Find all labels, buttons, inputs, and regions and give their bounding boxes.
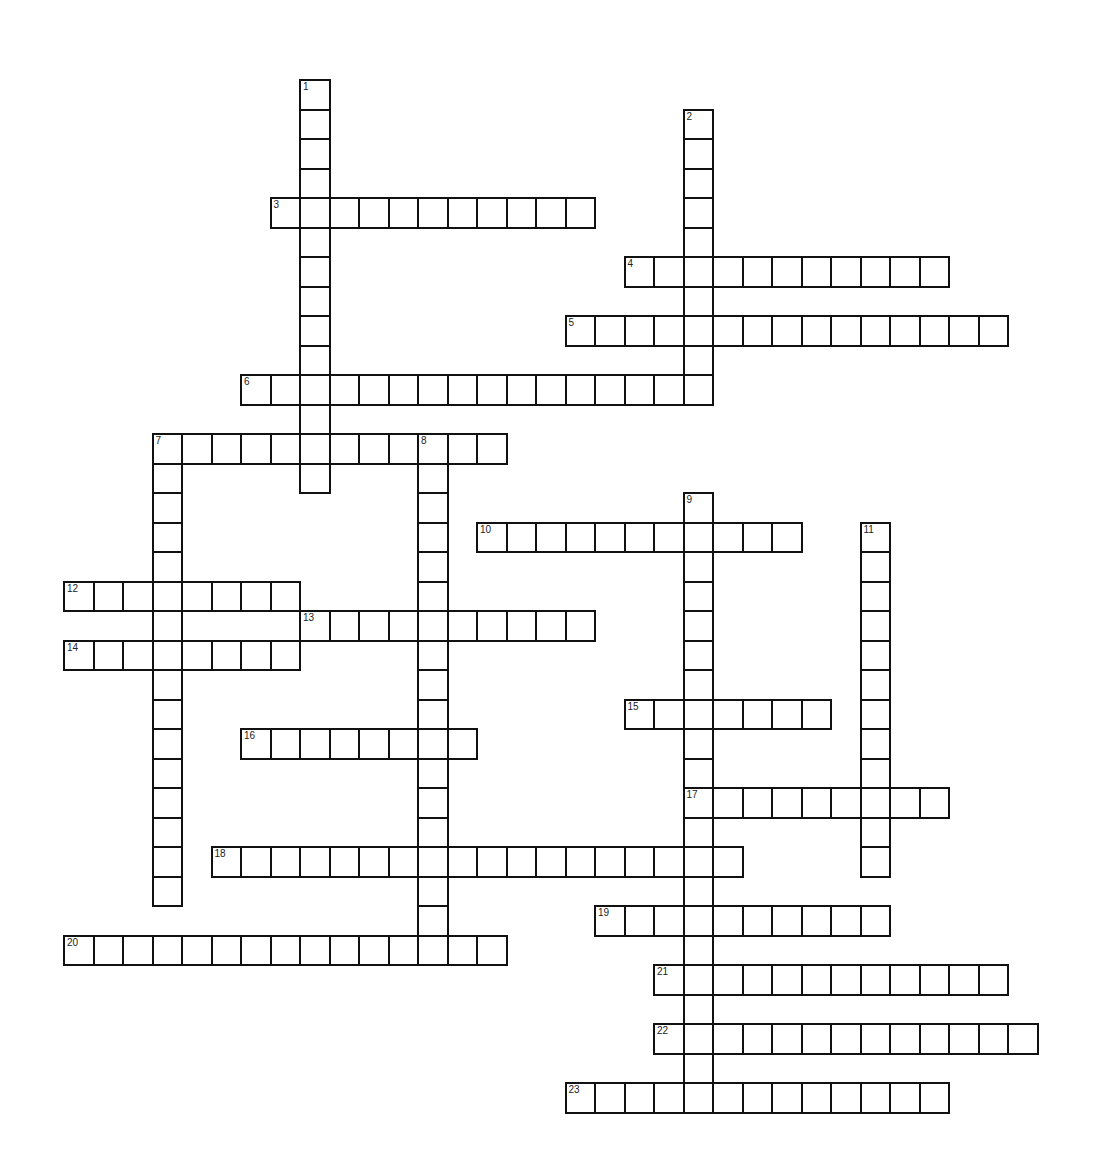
crossword-cell[interactable] (653, 1082, 685, 1114)
crossword-cell[interactable] (270, 935, 302, 967)
crossword-cell[interactable]: 4 (624, 256, 656, 288)
crossword-cell[interactable] (417, 905, 449, 937)
crossword-cell[interactable] (919, 256, 951, 288)
crossword-cell[interactable] (889, 256, 921, 288)
crossword-cell[interactable] (683, 138, 715, 170)
crossword-cell[interactable]: 22 (653, 1023, 685, 1055)
crossword-cell[interactable] (299, 374, 331, 406)
crossword-cell[interactable] (388, 374, 420, 406)
crossword-cell[interactable] (535, 374, 567, 406)
crossword-cell[interactable] (181, 433, 213, 465)
crossword-cell[interactable] (240, 581, 272, 613)
crossword-cell[interactable] (771, 699, 803, 731)
crossword-cell[interactable] (919, 1082, 951, 1114)
crossword-cell[interactable] (889, 1023, 921, 1055)
crossword-cell[interactable] (771, 315, 803, 347)
crossword-cell[interactable] (889, 315, 921, 347)
crossword-cell[interactable] (860, 581, 892, 613)
crossword-cell[interactable] (299, 168, 331, 200)
crossword-cell[interactable] (712, 1023, 744, 1055)
crossword-cell[interactable] (860, 1023, 892, 1055)
crossword-cell[interactable] (978, 315, 1010, 347)
crossword-cell[interactable] (476, 846, 508, 878)
crossword-cell[interactable] (329, 846, 361, 878)
crossword-cell[interactable] (417, 846, 449, 878)
crossword-cell[interactable]: 20 (63, 935, 95, 967)
crossword-cell[interactable]: 9 (683, 492, 715, 524)
crossword-cell[interactable] (860, 846, 892, 878)
crossword-cell[interactable]: 5 (565, 315, 597, 347)
crossword-cell[interactable] (329, 197, 361, 229)
crossword-cell[interactable] (624, 522, 656, 554)
crossword-cell[interactable] (830, 964, 862, 996)
crossword-cell[interactable] (978, 964, 1010, 996)
crossword-cell[interactable] (771, 964, 803, 996)
crossword-cell[interactable] (624, 315, 656, 347)
crossword-cell[interactable] (417, 197, 449, 229)
crossword-cell[interactable] (270, 846, 302, 878)
crossword-cell[interactable] (978, 1023, 1010, 1055)
crossword-cell[interactable] (240, 935, 272, 967)
crossword-cell[interactable] (240, 640, 272, 672)
crossword-cell[interactable] (181, 581, 213, 613)
crossword-cell[interactable] (299, 404, 331, 436)
crossword-cell[interactable] (771, 1082, 803, 1114)
crossword-cell[interactable] (683, 227, 715, 259)
crossword-cell[interactable] (860, 787, 892, 819)
crossword-cell[interactable] (506, 846, 538, 878)
crossword-cell[interactable] (683, 640, 715, 672)
crossword-cell[interactable] (889, 1082, 921, 1114)
crossword-cell[interactable] (683, 1082, 715, 1114)
crossword-cell[interactable]: 17 (683, 787, 715, 819)
crossword-cell[interactable] (476, 610, 508, 642)
crossword-cell[interactable] (653, 846, 685, 878)
crossword-cell[interactable] (93, 581, 125, 613)
crossword-cell[interactable] (683, 610, 715, 642)
crossword-cell[interactable] (299, 433, 331, 465)
crossword-cell[interactable] (712, 964, 744, 996)
crossword-cell[interactable] (358, 374, 390, 406)
crossword-cell[interactable] (181, 935, 213, 967)
crossword-cell[interactable] (417, 817, 449, 849)
crossword-cell[interactable] (683, 522, 715, 554)
crossword-cell[interactable] (830, 315, 862, 347)
crossword-cell[interactable]: 12 (63, 581, 95, 613)
crossword-cell[interactable] (447, 374, 479, 406)
crossword-cell[interactable] (417, 787, 449, 819)
crossword-cell[interactable] (358, 728, 390, 760)
crossword-cell[interactable] (299, 109, 331, 141)
crossword-cell[interactable] (476, 935, 508, 967)
crossword-cell[interactable] (712, 1082, 744, 1114)
crossword-cell[interactable] (506, 522, 538, 554)
crossword-cell[interactable] (506, 197, 538, 229)
crossword-cell[interactable] (388, 610, 420, 642)
crossword-cell[interactable] (860, 315, 892, 347)
crossword-cell[interactable] (181, 640, 213, 672)
crossword-cell[interactable] (417, 728, 449, 760)
crossword-cell[interactable] (270, 640, 302, 672)
crossword-cell[interactable]: 16 (240, 728, 272, 760)
crossword-cell[interactable] (299, 256, 331, 288)
crossword-cell[interactable] (93, 935, 125, 967)
crossword-cell[interactable] (948, 1023, 980, 1055)
crossword-cell[interactable] (860, 551, 892, 583)
crossword-cell[interactable] (240, 433, 272, 465)
crossword-cell[interactable] (594, 315, 626, 347)
crossword-cell[interactable] (948, 964, 980, 996)
crossword-cell[interactable] (771, 787, 803, 819)
crossword-cell[interactable] (152, 610, 184, 642)
crossword-cell[interactable] (683, 964, 715, 996)
crossword-cell[interactable] (152, 669, 184, 701)
crossword-cell[interactable] (211, 935, 243, 967)
crossword-cell[interactable] (152, 935, 184, 967)
crossword-cell[interactable] (683, 374, 715, 406)
crossword-cell[interactable] (742, 905, 774, 937)
crossword-cell[interactable] (712, 699, 744, 731)
crossword-cell[interactable] (417, 551, 449, 583)
crossword-cell[interactable] (417, 463, 449, 495)
crossword-cell[interactable] (447, 846, 479, 878)
crossword-cell[interactable] (771, 905, 803, 937)
crossword-cell[interactable] (417, 640, 449, 672)
crossword-cell[interactable]: 1 (299, 79, 331, 111)
crossword-cell[interactable]: 18 (211, 846, 243, 878)
